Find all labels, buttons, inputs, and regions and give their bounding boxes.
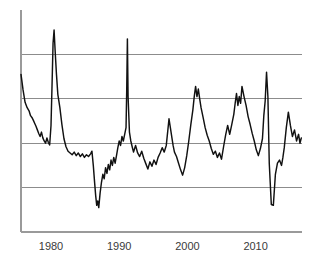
x-tick-label-1990: 1990 [107, 240, 131, 252]
x-tick-label-2010: 2010 [243, 240, 267, 252]
x-tick-label-2000: 2000 [175, 240, 199, 252]
series-line-1 [21, 30, 301, 208]
chart-figure: 1980199020002010 [0, 0, 318, 267]
line-chart-plot: 1980199020002010 [0, 0, 318, 267]
data-series-line [21, 30, 301, 208]
axis-lines [21, 10, 302, 232]
x-tick-label-1980: 1980 [39, 240, 63, 252]
grid-lines [21, 54, 302, 187]
x-axis-tick-labels: 1980199020002010 [39, 240, 268, 252]
